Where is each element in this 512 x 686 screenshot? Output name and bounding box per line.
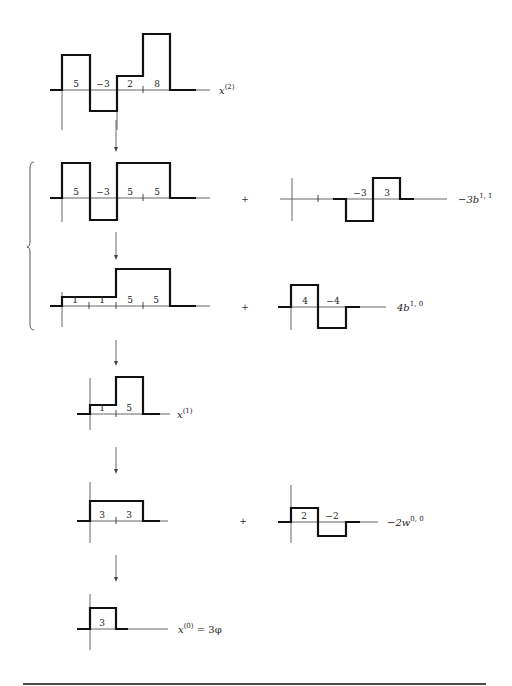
signal-plot-row3-right: 4−44b1, 0 (278, 285, 423, 330)
coefficient-value: 5 (127, 295, 133, 305)
step-function (77, 377, 160, 414)
plus-sign: + (241, 302, 249, 312)
function-label: 4b1, 0 (396, 300, 423, 313)
wavelet-decomposition-diagram: 5−328x(2)5−355−33−3b1, 111554−44b1, 015x… (0, 0, 512, 686)
signal-plot-row5-left: 33 (77, 482, 168, 543)
coefficient-value: 1 (72, 295, 78, 305)
coefficient-value: 3 (99, 618, 105, 628)
coefficient-value: −4 (326, 296, 340, 306)
coefficient-value: 3 (99, 510, 105, 520)
function-label: x(2) (219, 83, 235, 96)
coefficient-value: 2 (301, 511, 307, 521)
step-function (50, 163, 196, 220)
coefficient-value: 3 (126, 510, 132, 520)
step-function (77, 501, 160, 521)
plus-signs: +++ (239, 194, 249, 526)
coefficient-value: 5 (73, 79, 79, 89)
signal-plot-x0: 3x(0) = 3φ (77, 594, 222, 650)
function-label: x(1) (177, 407, 193, 420)
signal-plot-row2-left: 5−355 (50, 163, 210, 222)
down-arrow-icon (114, 447, 118, 474)
coefficient-value: 5 (153, 295, 159, 305)
function-label: −2w0, 0 (387, 515, 424, 528)
coefficient-value: −3 (96, 79, 110, 89)
coefficient-value: 3 (384, 188, 390, 198)
coefficient-value: −3 (353, 188, 367, 198)
function-label: −3b1, 1 (458, 192, 493, 205)
step-function (333, 178, 414, 221)
coefficient-value: 4 (302, 296, 308, 306)
coefficient-value: 2 (127, 79, 133, 89)
function-label: x(0) = 3φ (178, 622, 222, 635)
signal-plot-row2-right: −33−3b1, 1 (280, 178, 493, 221)
plus-sign: + (241, 194, 249, 204)
signal-plot-x2: 5−328x(2) (50, 34, 235, 130)
coefficient-value: −2 (325, 511, 338, 521)
down-arrow-icon (114, 232, 118, 260)
grouping-brace (27, 162, 34, 330)
coefficient-value: 8 (154, 79, 160, 89)
coefficient-value: 5 (154, 187, 160, 197)
coefficient-value: 1 (99, 295, 105, 305)
down-arrow-icon (114, 555, 118, 582)
plus-sign: + (239, 516, 247, 526)
coefficient-value: 5 (127, 187, 133, 197)
signal-plot-row3-left: 1155 (50, 269, 210, 327)
coefficient-value: 5 (73, 187, 79, 197)
signal-plot-x1: 15x(1) (77, 377, 193, 430)
signal-plot-row5-right: 2−2−2w0, 0 (278, 485, 424, 543)
step-function (278, 285, 360, 328)
coefficient-value: 5 (126, 403, 132, 413)
down-arrow-icon (114, 340, 118, 366)
coefficient-value: 1 (99, 403, 105, 413)
step-function (50, 34, 196, 111)
step-function (278, 508, 360, 536)
coefficient-value: −3 (96, 187, 110, 197)
